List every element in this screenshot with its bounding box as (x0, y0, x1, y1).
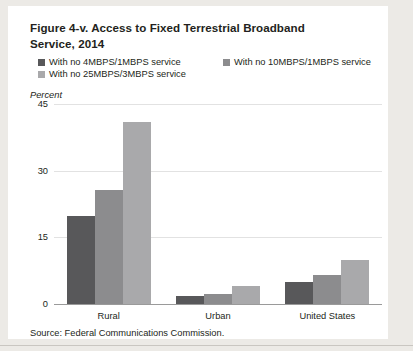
legend-swatch-icon (38, 71, 45, 78)
bar (67, 216, 95, 304)
bar (232, 286, 260, 304)
legend-swatch-icon (38, 59, 45, 66)
legend-item[interactable]: With no 25MBPS/3MBPS service (38, 69, 186, 80)
figure-title-line-2: Service, 2014 (30, 37, 104, 50)
legend-item[interactable]: With no 10MBPS/1MBPS service (223, 57, 371, 68)
figure-title: Figure 4-v. Access to Fixed Terrestrial … (30, 20, 360, 52)
x-axis-tick-label: United States (299, 311, 355, 321)
gridline (54, 104, 382, 105)
legend-label: With no 25MBPS/3MBPS service (49, 69, 186, 80)
bar (285, 282, 313, 304)
plot-area: 0153045RuralUrbanUnited States (54, 104, 382, 304)
legend-swatch-icon (223, 59, 230, 66)
legend-item[interactable]: With no 4MBPS/1MBPS service (38, 57, 181, 68)
y-axis-tick-label: 30 (38, 166, 48, 176)
y-axis-tick-label: 45 (38, 99, 48, 109)
legend-label: With no 4MBPS/1MBPS service (49, 57, 181, 68)
x-axis-tick-label: Urban (205, 311, 230, 321)
x-axis-line (54, 304, 382, 305)
legend-label: With no 10MBPS/1MBPS service (234, 57, 371, 68)
chart-legend: With no 4MBPS/1MBPS serviceWith no 10MBP… (38, 57, 383, 83)
figure-title-line-1: Figure 4-v. Access to Fixed Terrestrial … (30, 21, 305, 34)
y-axis-tick-label: 0 (43, 299, 48, 309)
bar (204, 294, 232, 304)
gridline (54, 171, 382, 172)
y-axis-tick-label: 15 (38, 232, 48, 242)
bar (313, 275, 341, 304)
bar (95, 190, 123, 304)
bar (176, 296, 204, 304)
source-note: Source: Federal Communications Commissio… (30, 328, 224, 338)
bar (341, 260, 369, 304)
page-divider (0, 345, 413, 346)
bar (123, 122, 151, 304)
figure-panel: Figure 4-v. Access to Fixed Terrestrial … (8, 6, 388, 339)
x-axis-tick-label: Rural (98, 311, 120, 321)
